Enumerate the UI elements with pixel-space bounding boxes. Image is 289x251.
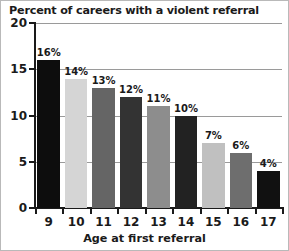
bar-value-label: 13%: [90, 75, 117, 86]
bar-group: 12%: [117, 23, 144, 208]
x-axis-tick: [35, 208, 37, 214]
y-axis-tick-label: 5: [1, 155, 27, 169]
x-axis-tick: [145, 208, 147, 214]
bar[interactable]: [120, 97, 142, 208]
x-axis-tick: [200, 208, 202, 214]
x-axis-tick-label: 16: [232, 215, 249, 229]
bar-value-label: 7%: [200, 130, 227, 141]
bar-group: 7%: [200, 23, 227, 208]
x-axis-tick: [227, 208, 229, 214]
y-axis-tick-label: 15: [1, 62, 27, 76]
y-axis-labels-group: 05101520: [1, 1, 27, 251]
bar-group: 6%: [227, 23, 254, 208]
x-axis-tick-label: 12: [123, 215, 140, 229]
x-axis-tick: [172, 208, 174, 214]
y-axis-tick-label: 20: [1, 16, 27, 30]
bar-value-label: 12%: [117, 84, 144, 95]
bar-group: 11%: [145, 23, 172, 208]
x-axis-tick-label: 17: [260, 215, 277, 229]
bar[interactable]: [65, 79, 87, 209]
x-axis-tick-label: 14: [178, 215, 195, 229]
bar-value-label: 10%: [172, 103, 199, 114]
bar-group: 14%: [62, 23, 89, 208]
bar-chart-figure: Percent of careers with a violent referr…: [0, 0, 289, 251]
bar-value-label: 16%: [35, 47, 62, 58]
x-axis-tick-label: 9: [45, 215, 53, 229]
bar[interactable]: [37, 60, 59, 208]
bar[interactable]: [230, 153, 252, 209]
bar-group: 16%: [35, 23, 62, 208]
x-axis-tick: [90, 208, 92, 214]
bar-group: 10%: [172, 23, 199, 208]
x-axis-tick-label: 13: [150, 215, 167, 229]
bar-value-label: 14%: [62, 66, 89, 77]
x-axis-title: Age at first referral: [1, 232, 288, 245]
x-axis-tick-label: 15: [205, 215, 222, 229]
x-axis-tick-label: 10: [68, 215, 85, 229]
x-axis-tick: [282, 208, 284, 214]
bar[interactable]: [257, 171, 279, 208]
bar-value-label: 6%: [227, 140, 254, 151]
bar-value-label: 4%: [255, 158, 282, 169]
bars-layer: 16%14%13%12%11%10%7%6%4%: [35, 23, 282, 208]
y-axis-tick-label: 0: [1, 201, 27, 215]
bar-group: 4%: [255, 23, 282, 208]
y-axis-tick-label: 10: [1, 109, 27, 123]
x-axis-tick: [117, 208, 119, 214]
chart-title: Percent of careers with a violent referr…: [9, 4, 259, 17]
bar-group: 13%: [90, 23, 117, 208]
plot-area: 16%14%13%12%11%10%7%6%4%: [35, 23, 282, 208]
x-axis-tick: [62, 208, 64, 214]
x-axis-tick-label: 11: [95, 215, 112, 229]
bar[interactable]: [175, 116, 197, 209]
bar-value-label: 11%: [145, 93, 172, 104]
x-axis-tick: [255, 208, 257, 214]
bar[interactable]: [92, 88, 114, 208]
bar[interactable]: [147, 106, 169, 208]
bar[interactable]: [202, 143, 224, 208]
